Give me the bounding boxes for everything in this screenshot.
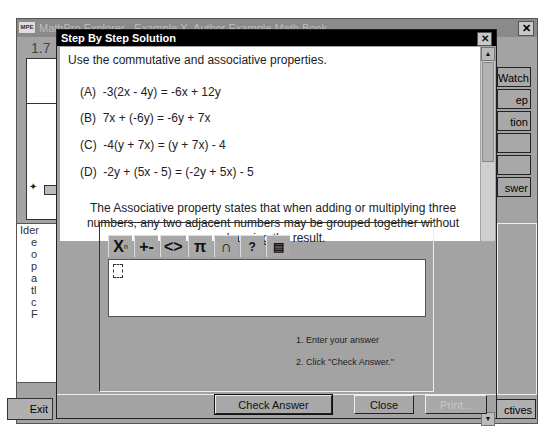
solution-intro: Use the commutative and associative prop… [68, 53, 327, 67]
help-icon[interactable]: ? [240, 235, 264, 257]
exponent-icon[interactable]: Xn [108, 235, 132, 257]
close-button[interactable]: Close [354, 395, 414, 414]
brackets-icon[interactable]: <> [160, 235, 186, 257]
parent-close-button[interactable]: ✕ [518, 21, 534, 36]
parent-side-panel [497, 223, 537, 395]
input-placeholder-box [113, 264, 123, 278]
app-logo-icon: MPE [19, 22, 35, 33]
math-toolbar: Xn +- <> π ∩ ? ▤ [108, 235, 290, 257]
scroll-up-icon[interactable]: ▲ [481, 47, 495, 61]
equation-label: (C) [80, 138, 97, 152]
dialog-title: Step By Step Solution [61, 32, 176, 44]
pointer-arrow-icon: ✦ [29, 181, 37, 192]
calculator-icon[interactable]: ▤ [266, 235, 290, 257]
equation-a: (A) -3(2x - 4y) = -6x + 12y [80, 85, 221, 99]
equation-text: -2y + (5x - 5) = (-2y + 5x) - 5 [103, 165, 253, 179]
instruction-2: 2. Click "Check Answer." [296, 357, 394, 367]
objectives-button[interactable]: ctives [494, 399, 536, 419]
section-number: 1.7 [31, 40, 50, 56]
answer-button[interactable]: swer [497, 177, 531, 197]
step-button[interactable]: ep [497, 89, 531, 109]
dialog-title-bar: Step By Step Solution [57, 30, 496, 46]
equation-text: -4(y + 7x) = (y + 7x) - 4 [103, 138, 225, 152]
equation-text: 7x + (-6y) = -6y + 7x [103, 111, 211, 125]
solution-content: Use the commutative and associative prop… [60, 47, 480, 241]
intersection-icon[interactable]: ∩ [214, 235, 238, 257]
plus-minus-icon[interactable]: +- [134, 235, 158, 257]
answer-editor-frame: Xn +- <> π ∩ ? ▤ 1. Enter your answer 2.… [99, 222, 434, 392]
scroll-down-icon[interactable]: ▼ [481, 412, 495, 426]
check-answer-button[interactable]: Check Answer [215, 395, 332, 414]
scroll-thumb[interactable] [482, 62, 494, 162]
watch-button[interactable]: Watch [497, 67, 531, 87]
side-button-5[interactable] [497, 155, 531, 175]
step-by-step-dialog: Step By Step Solution ✕ Use the commutat… [56, 29, 497, 419]
dialog-close-button[interactable]: ✕ [477, 32, 492, 46]
print-button[interactable]: Print... [425, 395, 487, 414]
equation-label: (D) [80, 165, 97, 179]
exit-button[interactable]: Exit [7, 398, 53, 420]
pi-icon[interactable]: π [188, 235, 212, 257]
equation-c: (C) -4(y + 7x) = (y + 7x) - 4 [80, 138, 226, 152]
answer-input[interactable] [108, 259, 426, 317]
equation-text: -3(2x - 4y) = -6x + 12y [103, 85, 221, 99]
solution-button[interactable]: tion [497, 111, 531, 131]
content-scrollbar[interactable]: ▲ ▼ [481, 47, 495, 241]
instruction-1: 1. Enter your answer [296, 335, 379, 345]
equation-label: (A) [80, 85, 96, 99]
equation-d: (D) -2y + (5x - 5) = (-2y + 5x) - 5 [80, 165, 254, 179]
equation-label: (B) [80, 111, 96, 125]
side-button-4[interactable] [497, 133, 531, 153]
equation-b: (B) 7x + (-6y) = -6y + 7x [80, 111, 210, 125]
